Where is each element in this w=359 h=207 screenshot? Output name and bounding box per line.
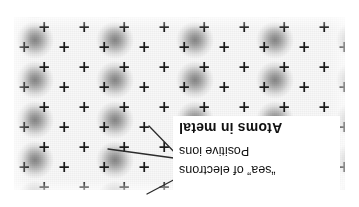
metal-lattice-figure: “sea” of electrons Positive ions Atoms i… [0,0,359,207]
annotation-callout-box: “sea” of electrons Positive ions Atoms i… [173,116,340,193]
label-atoms-in-metal-title: Atoms in metal [179,120,282,136]
label-electron-sea: “sea” of electrons [179,163,276,177]
rotated-diagram-group: “sea” of electrons Positive ions Atoms i… [0,0,359,207]
annotation-text-block: “sea” of electrons Positive ions Atoms i… [173,116,340,193]
label-positive-ions: Positive ions [179,144,249,158]
